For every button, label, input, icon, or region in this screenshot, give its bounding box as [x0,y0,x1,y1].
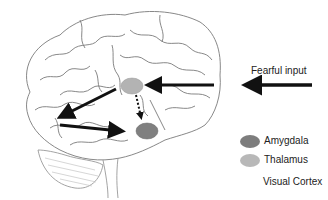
legend-swatch-amygdala [240,135,260,148]
thalamus-region [121,78,143,94]
legend-label-amygdala: Amygdala [264,135,308,146]
fearful-input-label: Fearful input [251,65,307,76]
brain-illustration [0,0,328,200]
brain-diagram: Fearful input Amygdala Thalamus Visual C… [0,0,328,200]
arrow-thalamus-to-amygdala-dotted [136,95,141,117]
legend-label-visual-cortex: Visual Cortex [263,176,322,187]
brain-outline [27,11,221,198]
legend-label-thalamus: Thalamus [264,154,308,165]
legend-swatch-thalamus [240,154,260,167]
amygdala-region [136,123,158,139]
